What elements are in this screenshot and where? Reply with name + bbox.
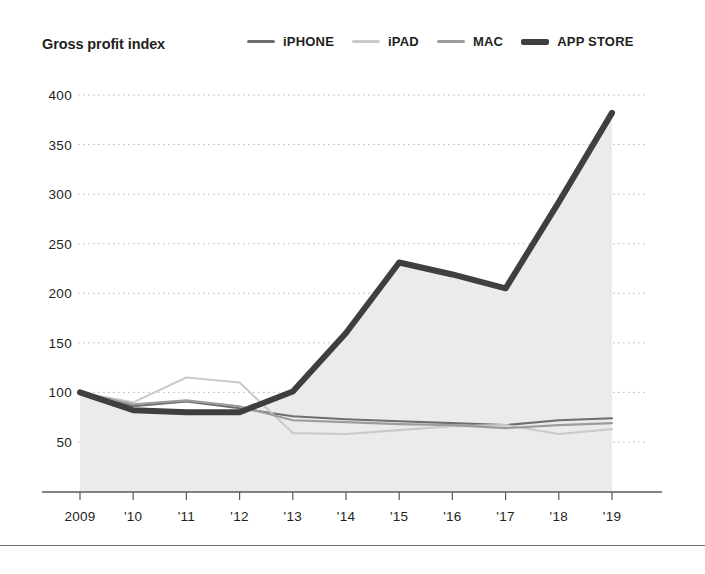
x-axis-tick-label: 2009 <box>64 509 95 524</box>
y-axis-tick-label: 50 <box>56 435 72 450</box>
x-axis-tick-label: '12 <box>230 509 249 524</box>
y-axis-tick-label: 100 <box>49 385 72 400</box>
x-axis-tick-label: '19 <box>603 509 622 524</box>
x-axis-tick-label: '18 <box>550 509 569 524</box>
y-axis-tick-label: 200 <box>49 286 72 301</box>
chart-card: Gross profit index iPHONEiPADMACAPP STOR… <box>0 0 705 574</box>
y-axis-tick-label: 300 <box>49 187 72 202</box>
x-axis-tick-label: '13 <box>284 509 303 524</box>
y-axis-tick-label: 150 <box>49 336 72 351</box>
x-axis-tick-labels: 2009'10'11'12'13'14'15'16'17'18'19 <box>64 509 621 524</box>
x-axis-tick-label: '14 <box>337 509 356 524</box>
chart-plot-area: 40035030025020015010050 2009'10'11'12'13… <box>0 0 705 574</box>
y-axis-tick-label: 250 <box>49 237 72 252</box>
y-axis-tick-label: 350 <box>49 138 72 153</box>
x-axis-tick-label: '16 <box>443 509 462 524</box>
y-axis-tick-label: 400 <box>49 88 72 103</box>
x-axis-tick-label: '17 <box>496 509 515 524</box>
x-axis-tick-label: '15 <box>390 509 409 524</box>
y-axis-tick-labels: 40035030025020015010050 <box>49 88 72 450</box>
line-chart-svg: 40035030025020015010050 2009'10'11'12'13… <box>0 0 705 574</box>
footer-divider <box>0 545 705 546</box>
x-axis-tick-label: '11 <box>178 509 196 524</box>
axis-lines <box>42 492 662 500</box>
x-axis-tick-label: '10 <box>124 509 143 524</box>
